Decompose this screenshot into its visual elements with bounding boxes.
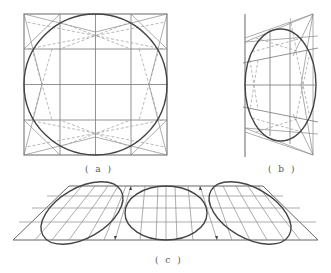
panel-b-label: ( b ) xyxy=(268,164,297,174)
panel-a xyxy=(24,14,167,155)
panel-b-dashed-lines xyxy=(250,18,310,132)
panel-c-label: ( c ) xyxy=(155,255,183,265)
panel-a-label: ( a ) xyxy=(85,164,113,174)
panel-c-middle-grid xyxy=(140,186,193,240)
panel-c-left-grid xyxy=(35,186,126,240)
panel-c-right-grid xyxy=(213,186,300,240)
panel-b-grid xyxy=(243,14,318,155)
panel-c xyxy=(13,169,318,257)
panel-c-left-ellipse xyxy=(31,169,134,257)
panel-b xyxy=(243,14,318,157)
panel-c-right-ellipse xyxy=(199,169,302,257)
panel-c-horizontal-lines xyxy=(19,196,316,222)
diagram-canvas xyxy=(0,0,331,273)
